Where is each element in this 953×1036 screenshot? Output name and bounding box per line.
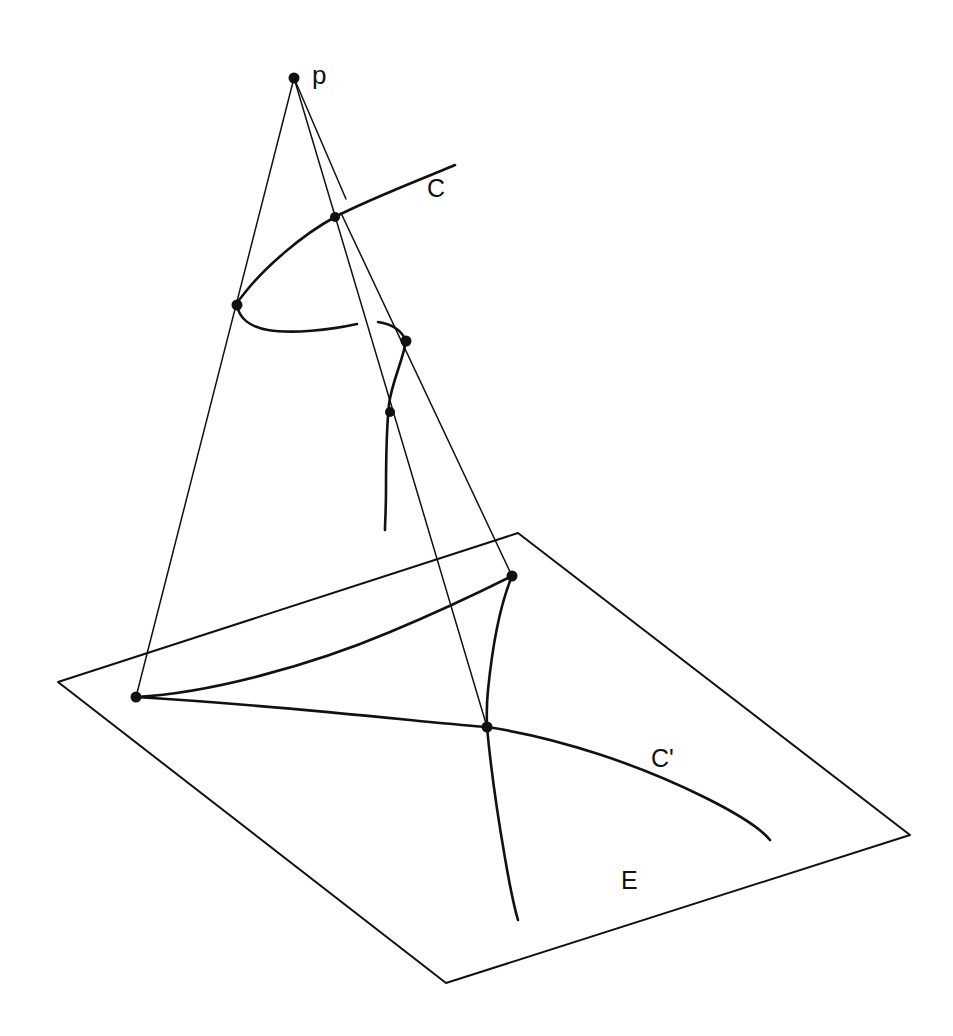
curve-C-segment-fold-near: [237, 305, 357, 332]
curve-fold-point: [401, 336, 412, 347]
plane-E-polygon: [58, 533, 910, 983]
curve-Cprime-segment-upper: [136, 576, 512, 697]
label-p: p: [312, 62, 326, 88]
image-curve-C-prime: [136, 576, 770, 920]
curve-C-segment-tail: [385, 341, 406, 530]
image-cusp-point: [507, 571, 518, 582]
curve-point-upper: [330, 212, 340, 222]
curve-Cprime-segment-tail: [487, 727, 518, 920]
label-plane-e: E: [621, 868, 638, 893]
projection-ray-left: [136, 78, 294, 697]
curve-C-segment-main: [237, 165, 455, 305]
curve-Cprime-segment-fold: [487, 576, 512, 727]
space-curve-C: [237, 165, 455, 530]
curve-cusp-point: [232, 300, 243, 311]
label-curve-c-prime: C': [651, 746, 674, 771]
curve-point-lower: [385, 407, 395, 417]
figure-canvas: p C C' E: [0, 0, 953, 1036]
image-left-cusp-point: [131, 692, 142, 703]
plane-E-outline: [58, 533, 910, 983]
projection-diagram: [0, 0, 953, 1036]
curve-Cprime-segment-long: [136, 697, 770, 840]
projection-rays: [136, 78, 512, 727]
projection-ray-short: [294, 78, 346, 199]
image-crossing-point: [482, 722, 493, 733]
label-curve-c: C: [427, 176, 445, 201]
projection-center-p: [289, 73, 300, 84]
